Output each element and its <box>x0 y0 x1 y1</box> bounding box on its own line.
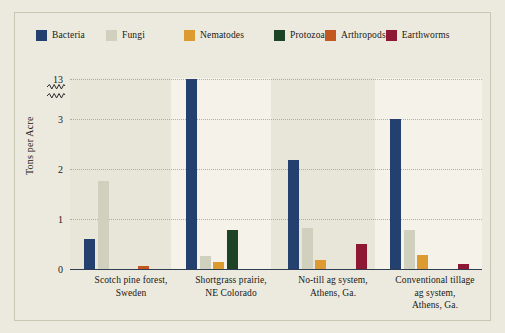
legend-item-nematodes: Nematodes <box>184 30 274 41</box>
gridline <box>70 119 482 120</box>
xlabel-line: ag system, <box>376 287 494 300</box>
legend-label: Arthropods <box>341 31 386 41</box>
legend-item-arthropods: Arthropods <box>325 30 386 41</box>
chart-legend: Bacteria Fungi Nematodes Protozoa Arthro… <box>36 26 296 45</box>
y-axis-tick-label: 0 <box>58 265 63 275</box>
bar-protozoa-group-2 <box>227 230 238 270</box>
xlabel-line: Athens, Ga. <box>376 299 494 312</box>
legend-item-bacteria: Bacteria <box>36 30 106 41</box>
xlabel-line: Conventional tillage <box>376 274 494 287</box>
bar-fungi-group-3 <box>302 228 313 270</box>
xlabel-line: NE Colorado <box>172 287 290 300</box>
legend-swatch-icon <box>106 30 117 41</box>
plot-area: 012313 <box>70 78 482 270</box>
legend-label: Fungi <box>122 31 145 41</box>
x-axis-label-group-2: Shortgrass prairie, NE Colorado <box>172 274 290 299</box>
y-axis-tick-label: 1 <box>58 215 63 225</box>
xlabel-line: Athens, Ga. <box>274 287 392 300</box>
legend-item-protozoa: Protozoa <box>274 30 325 41</box>
legend-label: Earthworms <box>402 31 450 41</box>
legend-swatch-icon <box>386 30 397 41</box>
x-axis-label-group-4: Conventional tillage ag system, Athens, … <box>376 274 494 312</box>
legend-item-fungi: Fungi <box>106 30 184 41</box>
bar-fungi-group-1 <box>98 181 109 270</box>
bar-bacteria-group-2 <box>186 79 197 270</box>
chart-figure: Bacteria Fungi Nematodes Protozoa Arthro… <box>0 0 505 333</box>
gridline <box>70 219 482 220</box>
bar-bacteria-group-4 <box>390 119 401 270</box>
legend-swatch-icon <box>325 30 336 41</box>
legend-swatch-icon <box>36 30 47 41</box>
bar-bacteria-group-1 <box>84 239 95 270</box>
x-axis-label-group-3: No-till ag system, Athens, Ga. <box>274 274 392 299</box>
legend-swatch-icon <box>184 30 195 41</box>
gridline <box>70 169 482 170</box>
axis-break-icon <box>46 83 66 99</box>
bar-bacteria-group-3 <box>288 160 299 270</box>
legend-item-earthworms: Earthworms <box>386 30 450 41</box>
legend-label: Protozoa <box>290 31 325 41</box>
bar-fungi-group-4 <box>404 230 415 270</box>
y-axis-tick-label: 2 <box>58 165 63 175</box>
xlabel-line: No-till ag system, <box>274 274 392 287</box>
xlabel-line: Shortgrass prairie, <box>172 274 290 287</box>
legend-label: Bacteria <box>52 31 85 41</box>
legend-swatch-icon <box>274 30 285 41</box>
x-axis-line <box>70 269 482 271</box>
y-axis-tick-label: 3 <box>58 115 63 125</box>
gridline <box>70 79 482 80</box>
bar-earthworms-group-3 <box>356 244 367 270</box>
legend-label: Nematodes <box>200 31 244 41</box>
y-axis-title: Tons per Acre <box>24 116 35 175</box>
